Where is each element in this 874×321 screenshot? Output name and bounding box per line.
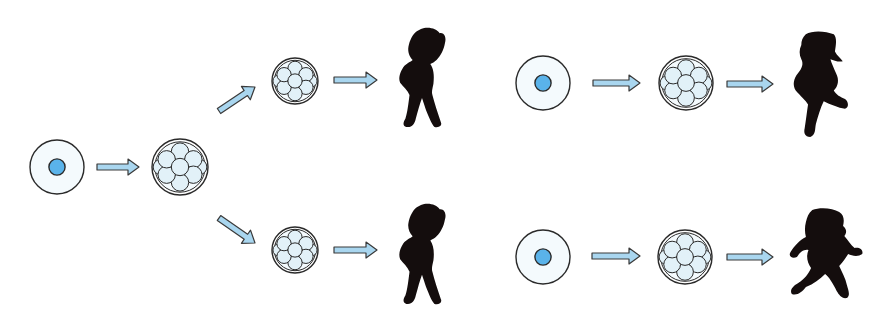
zygote-0-cell-icon bbox=[30, 140, 84, 194]
zygote-0-cell-icon bbox=[516, 56, 570, 110]
zygote-5-cell-icon bbox=[516, 230, 570, 284]
morula-2-cell-icon bbox=[659, 56, 713, 110]
arrow-8-arrow-icon bbox=[727, 249, 773, 265]
arrow-1-arrow-icon bbox=[593, 75, 640, 91]
boy-standing-9-silhouette-icon bbox=[399, 28, 445, 128]
arrow-3-arrow-icon bbox=[215, 80, 260, 117]
arrow-6-arrow-icon bbox=[592, 248, 640, 264]
girl-running-2-9-silhouette-icon bbox=[790, 208, 863, 298]
girl-running-4-silhouette-icon bbox=[794, 31, 848, 136]
arrow-4-arrow-icon bbox=[214, 211, 259, 249]
panel-identical-twins bbox=[30, 28, 446, 305]
morula-6-cell-icon bbox=[272, 227, 318, 273]
diagram-canvas bbox=[0, 0, 874, 321]
arrow-8-arrow-icon bbox=[334, 242, 377, 258]
morula-5-cell-icon bbox=[272, 58, 318, 104]
morula-2-cell-icon bbox=[152, 139, 208, 195]
morula-7-cell-icon bbox=[658, 230, 712, 284]
boy-standing-10-silhouette-icon bbox=[399, 204, 445, 305]
arrow-1-arrow-icon bbox=[97, 159, 139, 175]
panel-fraternal-twins bbox=[516, 31, 862, 298]
twin-development-diagram: Identical vs. fraternal twin development bbox=[0, 0, 874, 321]
arrow-7-arrow-icon bbox=[334, 72, 377, 88]
arrow-3-arrow-icon bbox=[727, 76, 773, 92]
